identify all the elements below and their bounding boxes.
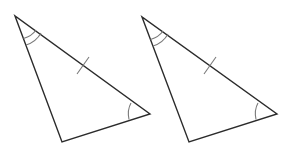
triangle-right-outline xyxy=(142,17,277,142)
congruent-triangles-diagram xyxy=(0,0,303,156)
triangle-left-outline xyxy=(15,16,150,142)
triangle-left-right-angle-arc xyxy=(128,103,131,120)
triangle-left xyxy=(15,16,150,142)
triangle-right-top-angle-arc-inner xyxy=(151,31,164,40)
triangle-right xyxy=(142,17,277,142)
triangle-right-right-angle-arc xyxy=(255,103,258,120)
triangle-right-top-angle-arc-outer xyxy=(153,34,168,46)
triangle-left-top-angle-arc-inner xyxy=(24,30,37,39)
triangle-left-side-tick xyxy=(77,57,89,74)
triangle-right-side-tick xyxy=(204,57,216,74)
triangle-left-top-angle-arc-outer xyxy=(26,33,41,45)
